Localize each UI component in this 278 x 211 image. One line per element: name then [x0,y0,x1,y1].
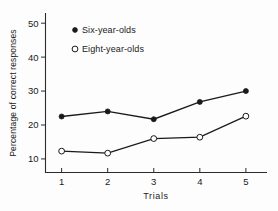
y-tick-label: 20 [28,119,39,130]
data-point-filled [151,117,156,122]
series-1 [59,89,248,122]
x-tick-label: 3 [151,176,156,187]
axis-lines [46,13,268,173]
legend-label-1: Six-year-olds [82,25,136,35]
data-point-filled [197,99,202,104]
chart-axes [46,13,268,173]
legend-marker-open [72,46,78,52]
y-axis-ticks: 1020304050 [28,18,46,165]
data-point-open [197,134,203,140]
legend-label-2: Eight-year-olds [82,44,144,54]
data-series-layer [59,89,249,157]
y-tick-label: 30 [28,85,39,96]
x-tick-label: 2 [105,176,110,187]
chart-legend: Six-year-oldsEight-year-olds [72,25,144,54]
legend-marker-filled [73,28,78,33]
data-point-open [105,150,111,156]
x-tick-label: 1 [59,176,64,187]
y-tick-label: 10 [28,153,39,164]
line-chart: 1020304050 12345 Six-year-oldsEight-year… [0,0,278,211]
x-tick-label: 4 [197,176,202,187]
data-point-filled [105,109,110,114]
y-tick-label: 50 [28,18,39,29]
x-axis-ticks: 12345 [59,168,249,187]
chart-figure: 1020304050 12345 Six-year-oldsEight-year… [0,0,278,211]
data-point-filled [243,89,248,94]
series-line [62,91,246,119]
y-tick-label: 40 [28,52,39,63]
data-point-filled [59,114,64,119]
data-point-open [243,113,249,119]
x-tick-label: 5 [243,176,248,187]
y-axis-title: Percentage of correct responses [8,29,18,157]
data-point-open [59,148,65,154]
data-point-open [151,136,157,142]
x-axis-title: Trials [143,191,168,201]
